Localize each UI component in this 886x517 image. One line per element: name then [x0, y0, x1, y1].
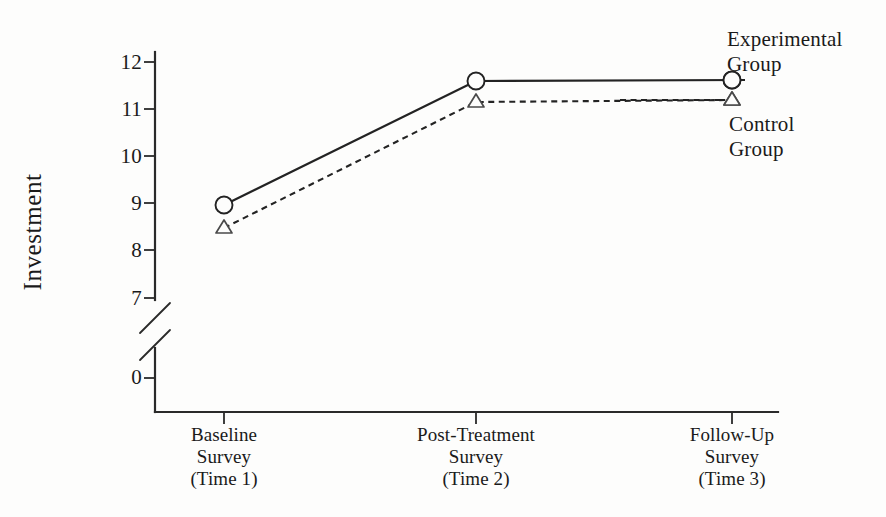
chart-plot-area [0, 0, 886, 517]
legend-key-marker-control [724, 92, 740, 105]
chart-figure: Investment 12 11 10 9 8 7 0 Baseline Sur… [0, 0, 886, 517]
series-line-experimental-group [224, 80, 745, 205]
axis-break-slash-lower [140, 303, 170, 333]
data-point-control-baseline [216, 220, 232, 233]
data-point-experimental-post-treatment [468, 73, 485, 90]
series-line-control-group [224, 100, 732, 228]
data-point-control-post-treatment [468, 94, 484, 107]
data-point-experimental-baseline [216, 197, 233, 214]
legend-key-marker-experimental [724, 72, 741, 89]
